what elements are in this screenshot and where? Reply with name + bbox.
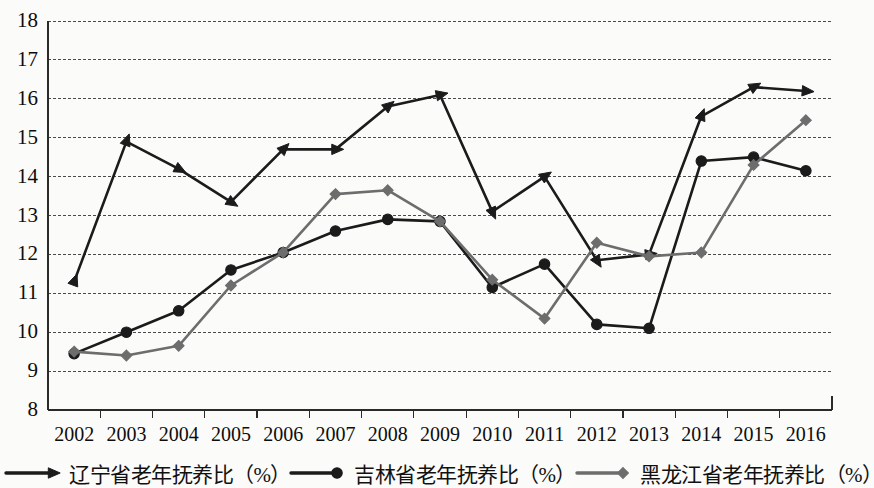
data-series-layer xyxy=(68,83,814,361)
data-point-circle xyxy=(383,214,393,224)
x-axis-label-2016: 2016 xyxy=(780,424,832,444)
chart-legend: 辽宁省老年抚养比（%）吉林省老年抚养比（%）黑龙江省老年抚养比（%） xyxy=(0,458,858,488)
chart-plot-area xyxy=(0,0,858,440)
data-point-diamond xyxy=(382,185,393,196)
data-point-triangle-arrow xyxy=(486,206,496,219)
y-axis-label: 18 xyxy=(4,10,38,31)
x-axis-label-2010: 2010 xyxy=(466,424,518,444)
data-point-triangle-arrow xyxy=(539,172,552,183)
y-axis-label: 14 xyxy=(4,166,38,187)
x-axis-label-2014: 2014 xyxy=(675,424,727,444)
y-axis-label: 17 xyxy=(4,49,38,70)
data-point-circle xyxy=(173,306,183,316)
x-axis-label-2015: 2015 xyxy=(727,424,779,444)
x-axis-label-2013: 2013 xyxy=(623,424,675,444)
data-point-circle xyxy=(801,166,811,176)
y-axis-label: 16 xyxy=(4,88,38,109)
data-point-circle xyxy=(121,327,131,337)
data-point-diamond xyxy=(121,350,132,361)
legend-marker-diamond-icon xyxy=(575,462,637,484)
x-axis-label-2007: 2007 xyxy=(309,424,361,444)
y-axis-label: 8 xyxy=(4,399,38,420)
data-point-circle xyxy=(330,226,340,236)
data-point-circle xyxy=(592,319,602,329)
y-axis-label: 15 xyxy=(4,127,38,148)
series-line xyxy=(74,157,806,353)
legend-item-1[interactable]: 吉林省老年抚养比（%） xyxy=(289,458,576,488)
data-point-circle xyxy=(696,156,706,166)
legend-marker-triangle-arrow-icon xyxy=(4,462,66,484)
x-axis-label-2002: 2002 xyxy=(48,424,100,444)
data-point-triangle-arrow xyxy=(590,254,601,267)
legend-item-0[interactable]: 辽宁省老年抚养比（%） xyxy=(4,458,291,488)
data-point-diamond xyxy=(696,247,707,258)
data-point-circle xyxy=(539,259,549,269)
data-point-diamond xyxy=(618,468,629,479)
x-axis-label-2006: 2006 xyxy=(257,424,309,444)
legend-label: 黑龙江省老年抚养比（%） xyxy=(640,458,874,488)
legend-label: 辽宁省老年抚养比（%） xyxy=(69,458,291,488)
x-axis-label-2011: 2011 xyxy=(518,424,570,444)
data-point-triangle-arrow xyxy=(48,468,60,478)
x-axis-label-2012: 2012 xyxy=(571,424,623,444)
data-point-circle xyxy=(226,265,236,275)
y-axis-label: 13 xyxy=(4,205,38,226)
x-axis-label-2009: 2009 xyxy=(414,424,466,444)
x-axis-label-2003: 2003 xyxy=(100,424,152,444)
data-point-triangle-arrow xyxy=(695,109,705,122)
data-point-triangle-arrow xyxy=(802,86,814,96)
x-axis-ticks xyxy=(100,410,779,418)
data-point-triangle-arrow xyxy=(68,274,78,287)
x-axis-label-2008: 2008 xyxy=(362,424,414,444)
y-axis-label: 12 xyxy=(4,243,38,264)
x-axis-label-2004: 2004 xyxy=(153,424,205,444)
y-axis-label: 9 xyxy=(4,360,38,381)
data-point-circle xyxy=(644,323,654,333)
x-axis-label-2005: 2005 xyxy=(205,424,257,444)
series-2 xyxy=(69,115,812,361)
legend-item-2[interactable]: 黑龙江省老年抚养比（%） xyxy=(575,458,874,488)
series-line xyxy=(74,120,806,355)
y-axis-label: 10 xyxy=(4,321,38,342)
data-point-triangle-arrow xyxy=(120,134,130,147)
legend-label: 吉林省老年抚养比（%） xyxy=(354,458,576,488)
data-point-circle xyxy=(332,468,342,478)
legend-marker-circle-icon xyxy=(289,462,351,484)
data-point-triangle-arrow xyxy=(173,163,186,173)
y-axis-label: 11 xyxy=(4,282,38,303)
